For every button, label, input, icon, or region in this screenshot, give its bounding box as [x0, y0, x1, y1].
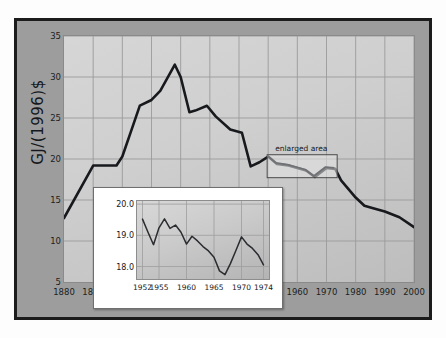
inset-panel: 18.019.020.0 195219551960196519701974: [93, 187, 283, 309]
inset-x-axis-ticks: 195219551960196519701974: [136, 283, 270, 295]
y-tick-label: 5: [39, 277, 61, 287]
inset-plot-area: [136, 200, 270, 280]
axis-area: GJ/(1996)$ energy intensity of the US ec…: [17, 21, 429, 317]
y-tick-label: 35: [39, 31, 61, 41]
inset-y-tick-label: 20.0: [100, 200, 134, 209]
chart-frame: GJ/(1996)$ energy intensity of the US ec…: [14, 18, 432, 320]
inset-y-tick-label: 19.0: [100, 231, 134, 240]
inset-y-tick-label: 18.0: [100, 262, 134, 271]
y-tick-label: 30: [39, 72, 61, 82]
y-tick-label: 25: [39, 113, 61, 123]
y-axis-ticks: 5101520253035: [35, 35, 61, 283]
y-tick-label: 20: [39, 154, 61, 164]
inset-x-tick-label: 1960: [172, 283, 202, 292]
x-tick-label: 2000: [397, 287, 431, 297]
figure-container: GJ/(1996)$ energy intensity of the US ec…: [0, 0, 446, 338]
inset-x-tick-label: 1955: [144, 283, 174, 292]
y-tick-label: 15: [39, 195, 61, 205]
inset-x-tick-label: 1965: [199, 283, 229, 292]
inset-x-tick-label: 1974: [249, 283, 279, 292]
y-tick-label: 10: [39, 236, 61, 246]
inset-y-axis-ticks: 18.019.020.0: [96, 200, 134, 280]
inset-line-chart: [137, 201, 269, 279]
